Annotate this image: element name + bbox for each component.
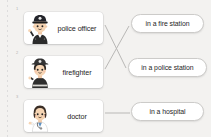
row-number-2: 2 [16, 50, 18, 55]
term-card-doctor[interactable]: doctor [24, 100, 103, 132]
matching-worksheet: 1 [0, 0, 211, 137]
definition-pill-police-station[interactable]: in a police station [128, 58, 207, 77]
term-label-firefighter: firefighter [55, 68, 101, 77]
match-row-3: 3 [0, 93, 211, 135]
match-row-1: 1 [0, 5, 211, 47]
firefighter-avatar-icon [25, 56, 55, 88]
term-card-police-officer[interactable]: police officer [24, 12, 103, 44]
row-number-3: 3 [16, 94, 18, 99]
term-label-police-officer: police officer [55, 24, 101, 33]
match-row-2: 2 [0, 49, 211, 91]
definition-pill-fire-station[interactable]: in a fire station [131, 14, 204, 33]
doctor-avatar-icon [25, 100, 55, 132]
row-number-1: 1 [16, 6, 18, 11]
police-officer-avatar-icon [25, 12, 55, 44]
definition-label-police-station: in a police station [141, 63, 193, 72]
definition-pill-hospital[interactable]: in a hospital [131, 102, 204, 121]
term-card-firefighter[interactable]: firefighter [24, 56, 103, 88]
term-label-doctor: doctor [55, 112, 101, 121]
definition-label-fire-station: in a fire station [146, 19, 190, 28]
definition-label-hospital: in a hospital [149, 107, 185, 116]
